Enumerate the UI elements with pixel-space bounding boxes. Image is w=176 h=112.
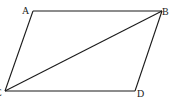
vertex-label-b: B <box>162 6 169 17</box>
vertex-label-d: D <box>137 88 144 99</box>
vertex-label-c: C <box>0 87 2 98</box>
parallelogram-diagram: A B C D <box>0 0 176 112</box>
vertex-label-a: A <box>22 5 30 16</box>
